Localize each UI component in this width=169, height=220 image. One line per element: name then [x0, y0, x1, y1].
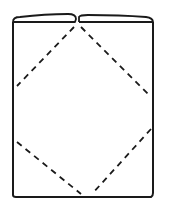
- diagram-svg: [0, 0, 169, 220]
- fold-upper-right: [81, 27, 151, 97]
- folded-paper-diagram: [0, 0, 169, 220]
- body-outline: [13, 22, 153, 197]
- fold-lower-right: [92, 129, 151, 194]
- fold-upper-left: [17, 27, 74, 86]
- dashed-fold-lines: [17, 27, 151, 194]
- top-flap-left: [13, 14, 76, 22]
- top-flap-right: [79, 15, 153, 22]
- fold-lower-left: [17, 142, 81, 194]
